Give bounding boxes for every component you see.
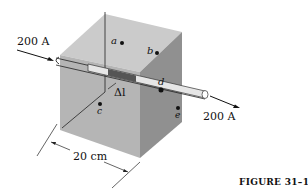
delta-l-label: Δl bbox=[114, 86, 125, 99]
current-in-arrow bbox=[17, 50, 51, 60]
dimension-label: 20 cm bbox=[73, 150, 107, 163]
current-out-label: 200 A bbox=[203, 110, 235, 123]
point-a-label: a bbox=[111, 35, 117, 46]
dimension-tick-left bbox=[37, 124, 57, 156]
point-d bbox=[159, 88, 164, 93]
point-a bbox=[120, 41, 124, 45]
point-d-label: d bbox=[158, 76, 164, 87]
point-b bbox=[155, 51, 159, 55]
cube-diagram bbox=[0, 0, 308, 196]
dimension-tick-right bbox=[112, 162, 140, 188]
figure-caption: FIGURE 31–15 bbox=[239, 177, 308, 187]
current-in-label: 200 A bbox=[17, 35, 49, 48]
point-b-label: b bbox=[147, 45, 153, 56]
current-out-arrow bbox=[210, 96, 237, 107]
point-e-label: e bbox=[175, 110, 180, 120]
point-c-label: c bbox=[97, 106, 102, 116]
